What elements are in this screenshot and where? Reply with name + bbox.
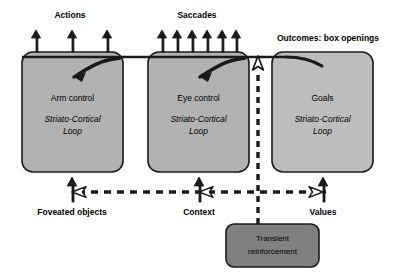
- input-arrows: [67, 177, 328, 202]
- module-subtitle-line2-eye-control: Loop: [189, 126, 208, 136]
- output-arrows-actions: [31, 30, 111, 52]
- module-eye-control[interactable]: Eye control Striato-Cortical Loop: [148, 52, 249, 172]
- module-box-goals[interactable]: [272, 52, 373, 172]
- module-subtitle-line2-arm-control: Loop: [63, 126, 82, 136]
- label-saccades: Saccades: [177, 10, 216, 20]
- module-goals[interactable]: Goals Striato-Cortical Loop: [272, 52, 373, 172]
- module-title-arm-control: Arm control: [51, 93, 95, 103]
- module-title-eye-control: Eye control: [177, 93, 220, 103]
- module-title-goals: Goals: [311, 93, 333, 103]
- module-subtitle-line2-goals: Loop: [313, 126, 332, 136]
- module-subtitle-line1-arm-control: Striato-Cortical: [44, 114, 101, 124]
- label-actions: Actions: [54, 10, 85, 20]
- module-box-eye-control[interactable]: [148, 52, 249, 172]
- reinforcement-label-line1: Transient: [256, 234, 290, 243]
- module-subtitle-line1-goals: Striato-Cortical: [294, 114, 351, 124]
- module-arm-control[interactable]: Arm control Striato-Cortical Loop: [22, 52, 123, 172]
- reinforcement-up-channel: [253, 56, 264, 224]
- diagram-canvas: Arm control Striato-Cortical Loop Eye co…: [0, 0, 394, 273]
- diagram-root: Arm control Striato-Cortical Loop Eye co…: [0, 0, 394, 273]
- transient-reinforcement-box[interactable]: Transient reinforcement: [226, 224, 319, 267]
- dashed-arrowhead-to-values: [309, 187, 323, 198]
- module-subtitle-line1-eye-control: Striato-Cortical: [170, 114, 227, 124]
- reinforcement-box-rect[interactable]: [226, 224, 319, 267]
- reinforcement-label-line2: reinforcement: [248, 247, 298, 256]
- module-box-arm-control[interactable]: [22, 52, 123, 172]
- label-values: Values: [310, 207, 337, 217]
- label-context: Context: [183, 207, 215, 217]
- label-outcomes: Outcomes: box openings: [277, 33, 379, 43]
- output-arrows-saccades: [157, 30, 240, 52]
- label-foveated-objects: Foveated objects: [37, 207, 107, 217]
